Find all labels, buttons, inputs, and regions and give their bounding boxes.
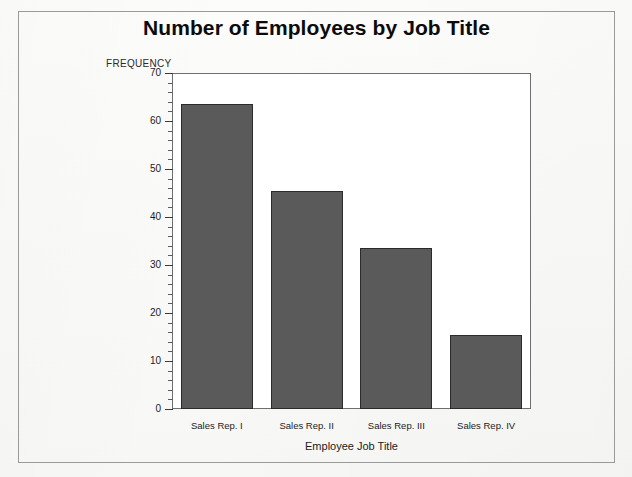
bar (360, 248, 432, 409)
chart-screenshot: Number of Employees by Job Title FREQUEN… (0, 0, 632, 477)
bar (181, 104, 253, 409)
bar-series (172, 73, 531, 409)
x-tick-label: Sales Rep. IV (426, 420, 546, 431)
chart-title: Number of Employees by Job Title (18, 16, 615, 40)
bar (271, 191, 343, 409)
x-axis-title: Employee Job Title (172, 440, 531, 452)
y-axis-title: FREQUENCY (106, 58, 171, 69)
bar (450, 335, 522, 409)
